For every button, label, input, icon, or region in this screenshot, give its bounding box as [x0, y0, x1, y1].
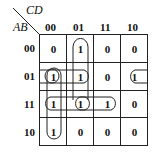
group-loop-row11-right: [76, 97, 116, 110]
group-loop-row11-left: [46, 97, 90, 110]
group-loop-wrap-row01: [131, 70, 148, 83]
group-loop-col01-vertical: [73, 38, 88, 100]
grouping-loops: [0, 0, 161, 158]
